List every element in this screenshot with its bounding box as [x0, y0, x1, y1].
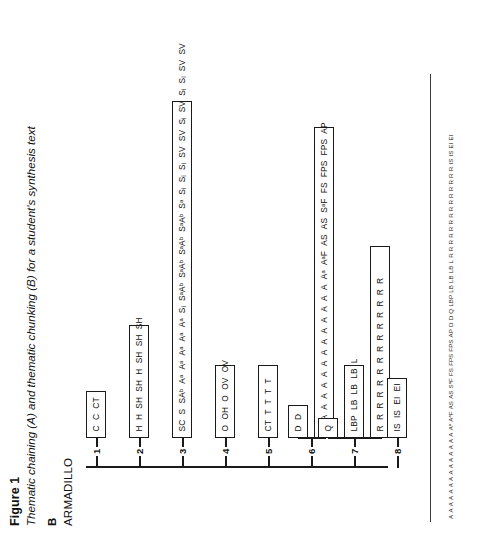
chunk-code: OH [221, 404, 229, 422]
chunk-code: Sᵢ [178, 115, 186, 127]
footer-code: FPS [448, 338, 454, 352]
chunk-code: Sᵢ [178, 160, 186, 172]
chunk-code: Sᵃ [178, 197, 186, 211]
chunk-code: Aᵃ [178, 358, 186, 372]
chunk-code: FPS [320, 136, 328, 158]
chunk-code: SV [178, 57, 186, 74]
chunk-code: Aᵃ [178, 330, 186, 344]
footer-code: A [448, 463, 454, 469]
footer-code: LBP [448, 294, 454, 308]
chunk-code: Q [324, 422, 332, 434]
panel-label-b: B [46, 518, 58, 526]
chunk-box-4-0: OOHOOVOV [215, 365, 235, 438]
branch-lead [268, 438, 270, 447]
chunk-code: R [376, 400, 384, 411]
chunk-box-7-0: Q [318, 418, 338, 438]
branch-sublead [354, 438, 356, 439]
chunk-code: S [178, 406, 186, 417]
footer-code: R [448, 252, 454, 259]
chunk-code: Sᵢ [178, 304, 186, 316]
chunk-code: Aᵃ [178, 372, 186, 386]
footer-code: AᵃF [448, 410, 454, 422]
chunk-code: R [376, 275, 384, 286]
branch-number-7: 7 [350, 449, 359, 454]
chunk-code: C [92, 411, 100, 422]
chunk-code: AS [320, 232, 328, 249]
footer-code: Q [448, 308, 454, 315]
footer-code: R [448, 246, 454, 253]
chunk-code: R [376, 287, 384, 298]
chunk-code: H [135, 366, 143, 377]
chunk-code: OV [221, 357, 229, 375]
chunk-code: FS [320, 180, 328, 196]
footer-code: A [448, 495, 454, 501]
chunk-code: EI [393, 394, 401, 407]
footer-code: AS [448, 389, 454, 399]
chunk-box-5-0: CTTTTT [258, 365, 278, 438]
chunk-box-8-0: ISISEIEI [387, 378, 407, 438]
figure-number: Figure 1 [8, 96, 22, 526]
chunk-code: SᵃF [320, 196, 328, 215]
footer-code: LB [448, 265, 454, 275]
chunk-code: T [264, 386, 272, 396]
branch-lead [182, 438, 184, 447]
chunk-code: H [135, 423, 143, 434]
branch-stub [96, 456, 98, 468]
chunk-code: SᵃAᵇ [178, 280, 186, 303]
chunk-code: Sᵢ [178, 86, 186, 98]
branch-lead [397, 438, 399, 447]
chunk-code: R [376, 355, 384, 366]
branch-number-2: 2 [135, 449, 144, 454]
branch-lead [96, 438, 98, 447]
chunk-code: R [376, 309, 384, 320]
footer-code: A [448, 476, 454, 482]
chunk-code: A [320, 325, 328, 336]
chunk-code: R [376, 332, 384, 343]
branch-lead [139, 438, 141, 447]
chunk-code: Aᵃ [320, 268, 328, 282]
horizontal-rule [430, 74, 431, 522]
chunk-code: A [320, 358, 328, 369]
chunk-code: D [294, 411, 302, 422]
chunk-code: A [320, 369, 328, 380]
footer-code: EI [448, 142, 454, 150]
chunk-code: SH [135, 377, 143, 394]
footer-code: D [448, 315, 454, 322]
chunk-code: SV [178, 144, 186, 161]
chunk-code: R [376, 321, 384, 332]
footer-code: IS [448, 150, 454, 158]
chunk-box-1-0: CCCT [86, 391, 106, 438]
chunk-code: SAᵇ [178, 386, 186, 406]
chunk-box-2-0: HHSHSHHSHSHSH [129, 325, 149, 438]
figure-caption: Figure 1 Thematic chaining (A) and thema… [8, 96, 37, 526]
chunk-code: Sᵢ [178, 74, 186, 86]
chunk-code: A [320, 336, 328, 347]
footer-code: R [448, 212, 454, 219]
chunk-code: R [376, 423, 384, 434]
branch-sublead [324, 438, 326, 439]
footer-code: SᵃF [448, 377, 454, 389]
chunk-code: H [135, 411, 143, 422]
chunk-code: EI [393, 381, 401, 394]
chunk-code: Aᵃ [178, 344, 186, 358]
chunk-code: A [320, 293, 328, 304]
chunk-code: AS [320, 215, 328, 232]
footer-code: EI [448, 134, 454, 142]
branch-number-1: 1 [92, 449, 101, 454]
branch-lead [225, 438, 227, 447]
chunk-code: SH [135, 315, 143, 332]
footer-code: A [448, 444, 454, 450]
chunk-code: A [320, 314, 328, 325]
chunk-code: A [320, 391, 328, 402]
footer-code: A [448, 450, 454, 456]
footer-code: A [448, 431, 454, 437]
branch-lead [311, 439, 313, 447]
chunk-code: T [264, 376, 272, 386]
chunk-code: R [376, 389, 384, 400]
chunk-code: SH [135, 332, 143, 349]
chunk-code: OV [221, 375, 229, 393]
branch-stub [311, 456, 313, 468]
chunk-code: O [221, 422, 229, 434]
chunk-code: SC [178, 417, 186, 434]
chunk-code: Aᵃ [178, 316, 186, 330]
